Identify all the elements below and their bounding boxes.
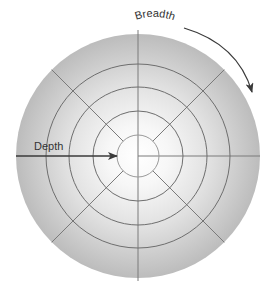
breadth-label: Breadth	[133, 7, 177, 23]
depth-label: Depth	[34, 140, 63, 152]
depth-breadth-diagram: Depth Breadth	[0, 0, 275, 293]
breadth-label-path: Breadth	[133, 7, 177, 23]
